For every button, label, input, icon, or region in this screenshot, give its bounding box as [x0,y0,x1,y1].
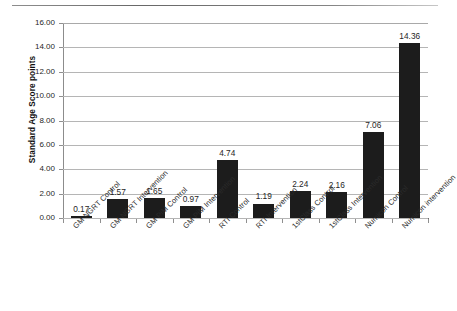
bar-value-label: 4.74 [207,148,247,158]
x-tick-mark [428,219,429,223]
bar-value-label: 1.57 [98,187,138,197]
gridline [63,96,428,97]
y-tick-mark [59,96,63,97]
y-tick-mark [59,145,63,146]
y-tick-label: 14.00 [21,42,55,51]
x-tick-mark [173,219,174,223]
y-tick-label: 6.00 [21,140,55,149]
bar-value-label: 14.36 [390,31,430,41]
gridline [63,47,428,48]
y-tick-label: 10.00 [21,91,55,100]
y-tick-mark [59,194,63,195]
y-tick-mark [59,23,63,24]
x-tick-mark [246,219,247,223]
y-tick-label: 16.00 [21,18,55,27]
y-tick-mark [59,47,63,48]
y-tick-mark [59,72,63,73]
y-tick-mark [59,121,63,122]
bar-value-label: 2.16 [317,180,357,190]
x-tick-mark [63,219,64,223]
x-tick-mark [209,219,210,223]
x-tick-mark [355,219,356,223]
gridline [63,72,428,73]
x-tick-mark [100,219,101,223]
bar-value-label: 7.06 [353,120,393,130]
y-tick-mark [59,169,63,170]
x-tick-mark [282,219,283,223]
x-tick-mark [319,219,320,223]
gridline [63,23,428,24]
page-rule-artifact [12,5,438,6]
y-tick-label: 8.00 [21,116,55,125]
x-tick-mark [392,219,393,223]
bar-value-label: 1.65 [134,186,174,196]
y-tick-label: 2.00 [21,189,55,198]
y-tick-label: 4.00 [21,164,55,173]
x-tick-mark [136,219,137,223]
bar-value-label: 2.24 [280,179,320,189]
y-tick-label: 12.00 [21,67,55,76]
y-tick-label: 0.00 [21,213,55,222]
